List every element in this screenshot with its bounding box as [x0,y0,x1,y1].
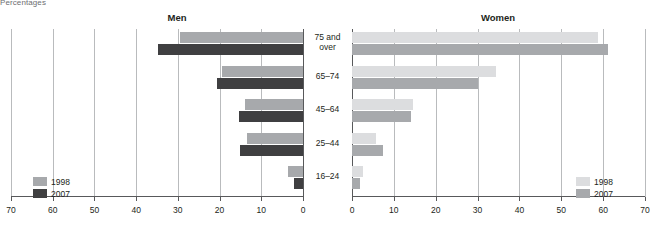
axis-tick-mark [561,197,562,201]
axis-tick-mark [478,197,479,201]
axis-tick-label: 40 [499,205,539,215]
axis-tick-label: 10 [241,205,281,215]
axis-tick-mark [436,197,437,201]
bar-2007 [352,145,383,156]
legend-item-2007: 2007 [576,188,613,199]
category-label: 45–64 [303,105,352,115]
axis-tick-mark [352,197,353,201]
category-label: 25–44 [303,139,352,149]
axis-tick-label: 60 [33,205,73,215]
category-label: 65–74 [303,72,352,82]
legend-swatch-1998 [576,177,590,186]
legend-item-2007: 2007 [33,188,70,199]
bar-group [352,130,645,164]
axis-tick-label: 0 [332,205,372,215]
legend-label-1998: 1998 [51,177,70,187]
bar-2007 [352,178,360,189]
bar-group [11,29,303,63]
axis-tick-label: 30 [158,205,198,215]
axis-tick-mark [519,197,520,201]
bar-1998 [245,99,303,110]
panel-title-women: Women [438,12,558,23]
panel-title-men: Men [117,12,237,23]
axis-tick-label: 70 [625,205,654,215]
bar-1998 [222,66,303,77]
category-label: 16–24 [303,172,352,182]
axis-tick-label: 10 [374,205,414,215]
bar-1998 [247,133,303,144]
axis-tick-mark [136,197,137,201]
bar-group [352,29,645,63]
bar-group [352,96,645,130]
chart-container: Percentages Men Women 75 andover65–7445–… [0,0,654,247]
bar-1998 [288,166,303,177]
axis-tick-mark [178,197,179,201]
bar-2007 [158,44,303,55]
bar-1998 [352,66,496,77]
legend-swatch-2007 [576,189,590,198]
axis-tick-mark [303,197,304,201]
axis-tick-label: 60 [583,205,623,215]
plot-area-men [11,29,303,197]
axis-tick-label: 50 [541,205,581,215]
legend-item-1998: 1998 [576,176,613,187]
axis-tick-mark [261,197,262,201]
axis-tick-mark [94,197,95,201]
axis-tick-mark [645,197,646,201]
legend-swatch-2007 [33,189,47,198]
bar-1998 [352,133,376,144]
bar-2007 [217,78,303,89]
axis-tick-label: 20 [416,205,456,215]
bar-2007 [239,111,303,122]
plot-area-women [352,29,645,197]
axis-tick-label: 70 [0,205,31,215]
axis-tick-mark [220,197,221,201]
legend-label-1998: 1998 [594,177,613,187]
bar-group [11,63,303,97]
legend-label-2007: 2007 [594,189,613,199]
legend-label-2007: 2007 [51,189,70,199]
gridline [645,29,646,197]
axis-tick-mark [394,197,395,201]
axis-tick-label: 40 [116,205,156,215]
legend-women: 1998 2007 [576,176,613,200]
axis-tick-label: 0 [283,205,323,215]
bar-group [11,96,303,130]
legend-swatch-1998 [33,177,47,186]
bar-2007 [352,111,411,122]
bar-2007 [352,78,478,89]
bar-2007 [240,145,303,156]
bar-2007 [294,178,303,189]
bar-1998 [352,99,413,110]
category-label: 75 andover [303,33,352,52]
bar-group [352,63,645,97]
legend-men: 1998 2007 [33,176,70,200]
bar-group [11,130,303,164]
axis-tick-mark [11,197,12,201]
axis-tick-label: 50 [74,205,114,215]
axis-tick-label: 20 [200,205,240,215]
axis-tick-label: 30 [458,205,498,215]
unit-note: Percentages [0,0,46,7]
bar-2007 [352,44,608,55]
bar-1998 [180,32,303,43]
bar-1998 [352,166,363,177]
legend-item-1998: 1998 [33,176,70,187]
bar-1998 [352,32,598,43]
category-axis-labels: 75 andover65–7445–6425–4416–24 [303,29,352,197]
